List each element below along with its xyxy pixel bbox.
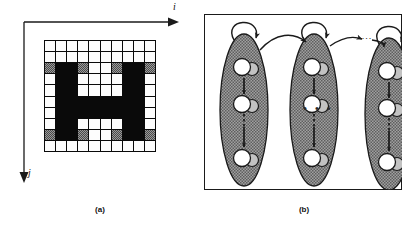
pixel-grid [44,40,156,152]
pixel-cell-black-pixel-r3-c7 [123,74,133,84]
pixel-cell-white-pixel-r9-c6 [112,141,122,151]
pixel-cell-gray-hatched-pixel-r2-c6 [112,63,122,73]
pixel-cell-black-pixel-r5-c2 [67,97,77,107]
state-column-3 [365,26,402,190]
axis-label-i: i [173,2,176,12]
pixel-cell-black-pixel-r3-c1 [56,74,66,84]
pixel-cell-black-pixel-r8-c1 [56,130,66,140]
pixel-cell-white-pixel-r6-c0 [45,108,55,118]
pixel-cell-white-pixel-r9-c1 [56,141,66,151]
pixel-cell-black-pixel-r5-c1 [56,97,66,107]
pixel-cell-white-pixel-r7-c6 [112,119,122,129]
pixel-cell-white-pixel-r9-c0 [45,141,55,151]
pixel-cell-white-pixel-r7-c3 [78,119,88,129]
pixel-cell-white-pixel-r1-c8 [134,52,144,62]
pixel-cell-white-pixel-r2-c4 [89,63,99,73]
pixel-cell-white-pixel-r1-c2 [67,52,77,62]
pixel-cell-black-pixel-r8-c8 [134,130,144,140]
transition-ellipsis-label: ... [362,31,373,41]
node-pair-bottom-3 [379,154,396,171]
pixel-cell-white-pixel-r1-c3 [78,52,88,62]
pixel-cell-white-pixel-r9-c7 [123,141,133,151]
pixel-cell-black-pixel-r6-c3 [78,108,88,118]
pixel-cell-black-pixel-r5-c3 [78,97,88,107]
transition-arrow-2-to-dots [330,37,362,46]
pixel-cell-black-pixel-r3-c8 [134,74,144,84]
pixel-cell-white-pixel-r0-c0 [45,41,55,51]
pixel-cell-black-pixel-r7-c1 [56,119,66,129]
pixel-cell-black-pixel-r6-c7 [123,108,133,118]
pixel-cell-gray-hatched-pixel-r2-c9 [145,63,155,73]
pixel-cell-white-pixel-r4-c0 [45,85,55,95]
pixel-cell-white-pixel-r9-c8 [134,141,144,151]
pixel-cell-black-pixel-r2-c1 [56,63,66,73]
pixel-cell-white-pixel-r3-c9 [145,74,155,84]
node-pair-top-3 [379,63,396,80]
node-pair-middle-3 [379,100,396,117]
pixel-cell-white-pixel-r0-c4 [89,41,99,51]
pixel-cell-black-pixel-r7-c2 [67,119,77,129]
pixel-cell-gray-hatched-pixel-r8-c3 [78,130,88,140]
pixel-cell-black-pixel-r5-c6 [112,97,122,107]
pixel-cell-white-pixel-r3-c5 [101,74,111,84]
pixel-cell-white-pixel-r7-c4 [89,119,99,129]
figure-container: i j (a) [0,0,406,233]
node-pair-middle-1 [234,96,251,113]
pixel-cell-white-pixel-r0-c7 [123,41,133,51]
pixel-cell-black-pixel-r5-c4 [89,97,99,107]
pixel-cell-black-pixel-r2-c2 [67,63,77,73]
pixel-cell-black-pixel-r5-c7 [123,97,133,107]
middle-ellipsis-label: • • • [303,103,333,114]
pixel-cell-black-pixel-r6-c6 [112,108,122,118]
pixel-cell-gray-hatched-pixel-r8-c6 [112,130,122,140]
pixel-cell-gray-hatched-pixel-r2-c3 [78,63,88,73]
pixel-cell-white-pixel-r1-c6 [112,52,122,62]
pixel-cell-white-pixel-r2-c5 [101,63,111,73]
pixel-cell-black-pixel-r2-c8 [134,63,144,73]
panel-a: i j [0,0,200,233]
node-pair-bottom-1 [234,150,251,167]
pixel-cell-black-pixel-r3-c2 [67,74,77,84]
pixel-cell-white-pixel-r7-c9 [145,119,155,129]
pixel-cell-black-pixel-r2-c7 [123,63,133,73]
pixel-cell-white-pixel-r0-c3 [78,41,88,51]
pixel-cell-white-pixel-r0-c8 [134,41,144,51]
pixel-cell-black-pixel-r6-c5 [101,108,111,118]
pixel-cell-white-pixel-r3-c4 [89,74,99,84]
pixel-cell-black-pixel-r6-c2 [67,108,77,118]
pixel-cell-white-pixel-r0-c6 [112,41,122,51]
pixel-cell-black-pixel-r7-c8 [134,119,144,129]
pixel-cell-white-pixel-r9-c2 [67,141,77,151]
pixel-cell-white-pixel-r4-c3 [78,85,88,95]
pixel-cell-gray-hatched-pixel-r2-c0 [45,63,55,73]
pixel-cell-gray-hatched-pixel-r8-c0 [45,130,55,140]
pixel-cell-white-pixel-r1-c0 [45,52,55,62]
transition-arrow-1-to-2 [260,35,306,50]
pixel-cell-white-pixel-r8-c5 [101,130,111,140]
pixel-cell-white-pixel-r6-c9 [145,108,155,118]
pixel-cell-black-pixel-r8-c2 [67,130,77,140]
pixel-cell-black-pixel-r4-c8 [134,85,144,95]
pixel-cell-black-pixel-r4-c7 [123,85,133,95]
pixel-cell-white-pixel-r7-c5 [101,119,111,129]
pixel-cell-white-pixel-r9-c4 [89,141,99,151]
pixel-cell-black-pixel-r5-c5 [101,97,111,107]
pixel-cell-white-pixel-r0-c2 [67,41,77,51]
pixel-cell-white-pixel-r0-c1 [56,41,66,51]
pixel-cell-white-pixel-r0-c5 [101,41,111,51]
pixel-cell-white-pixel-r1-c4 [89,52,99,62]
pixel-cell-white-pixel-r7-c0 [45,119,55,129]
pixel-cell-white-pixel-r4-c5 [101,85,111,95]
node-pair-top-1 [234,59,251,76]
pixel-cell-white-pixel-r5-c9 [145,97,155,107]
node-pair-bottom-2 [304,150,321,167]
pixel-cell-black-pixel-r7-c7 [123,119,133,129]
pixel-cell-white-pixel-r1-c9 [145,52,155,62]
pixel-cell-white-pixel-r3-c6 [112,74,122,84]
node-pair-top-2 [304,59,321,76]
pixel-cell-white-pixel-r1-c7 [123,52,133,62]
pixel-cell-white-pixel-r9-c5 [101,141,111,151]
pixel-cell-gray-hatched-pixel-r8-c9 [145,130,155,140]
pixel-cell-white-pixel-r3-c3 [78,74,88,84]
pixel-cell-white-pixel-r1-c1 [56,52,66,62]
